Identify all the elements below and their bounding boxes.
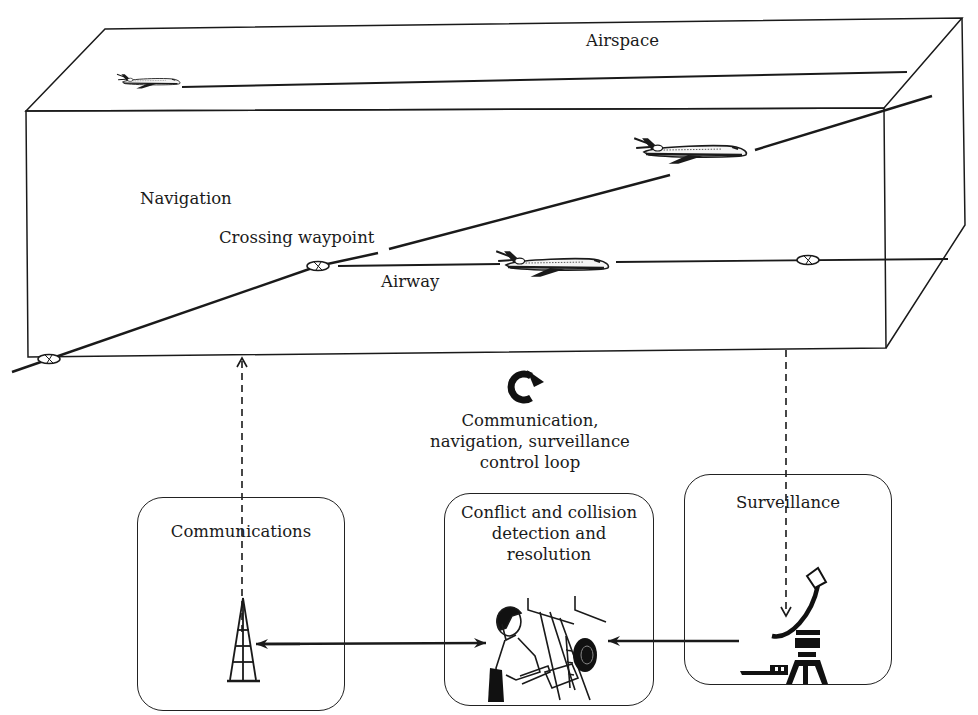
airway-label: Airway: [381, 272, 439, 292]
aircraft-climbing-icon: [634, 138, 746, 163]
surveillance-label: Surveillance: [684, 493, 892, 513]
communications-label: Communications: [137, 522, 345, 542]
circular-arrow-icon: [511, 370, 544, 400]
conflict-label-line-3: resolution: [444, 544, 654, 565]
airspace-box: [26, 18, 965, 357]
waypoint-right-icon: [797, 256, 819, 265]
conflict-detection-label: Conflict and collision detection and res…: [444, 502, 654, 565]
conflict-label-line-1: Conflict and collision: [444, 502, 654, 523]
crossing-waypoint-label: Crossing waypoint: [219, 228, 374, 248]
conflict-label-line-2: detection and: [444, 523, 654, 544]
aircraft-top-icon: [117, 74, 180, 88]
airway-route: [338, 259, 948, 266]
control-loop-label: Communication, navigation, surveillance …: [405, 410, 655, 473]
top-airway-line: [182, 72, 907, 87]
control-loop-line-2: navigation, surveillance: [405, 431, 655, 452]
airspace-label: Airspace: [586, 31, 659, 51]
control-loop-line-3: control loop: [405, 452, 655, 473]
navigation-route: [12, 96, 932, 372]
aircraft-airway-icon: [496, 251, 608, 276]
control-loop-line-1: Communication,: [405, 410, 655, 431]
waypoint-left-entry-icon: [38, 355, 60, 364]
navigation-label: Navigation: [140, 189, 232, 209]
waypoint-crossing-icon: [307, 262, 329, 271]
